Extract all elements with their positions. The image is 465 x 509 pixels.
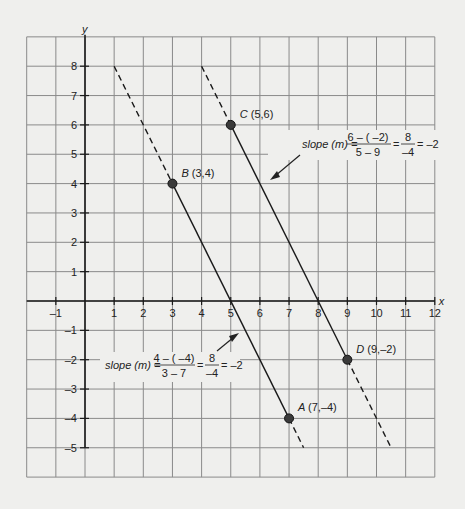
x-tick-label: 2	[140, 307, 146, 319]
slope-annotation-ab: slope (m) = 4 – ( –4) 3 – 7 = 8 –4 = –2	[100, 352, 243, 382]
svg-text:C (5,6): C (5,6)	[240, 108, 274, 120]
x-tick-label: 8	[315, 307, 321, 319]
arrow-icon	[217, 333, 239, 351]
x-tick-label: 1	[111, 307, 117, 319]
svg-text:A (7,–4): A (7,–4)	[297, 401, 337, 413]
y-tick-label: –3	[65, 383, 77, 395]
y-tick-label: 4	[71, 178, 77, 190]
y-tick-label: 2	[71, 236, 77, 248]
x-tick-label: 5	[228, 307, 234, 319]
svg-text:=: =	[393, 138, 399, 150]
point-d: D (9,–2)	[343, 343, 396, 365]
x-tick-label: 10	[370, 307, 382, 319]
svg-text:D (9,–2): D (9,–2)	[356, 343, 396, 355]
fraction-numerator-2: 8	[209, 352, 215, 364]
x-tick-label: 7	[286, 307, 292, 319]
y-tick-label: 7	[71, 90, 77, 102]
x-tick-label: 11	[400, 307, 411, 319]
dashed-extension	[347, 360, 391, 448]
y-tick-label: –4	[65, 412, 77, 424]
y-tick-label: –2	[65, 354, 77, 366]
svg-text:=: =	[197, 359, 203, 371]
x-tick-label: 12	[429, 307, 441, 319]
coordinate-graph: xy–112345678910111287654321–1–2–3–4–5 A …	[0, 0, 465, 509]
x-tick-label: 9	[344, 307, 350, 319]
x-tick-label: 4	[199, 307, 205, 319]
slope-annotation-cd: slope (m) = 6 – ( –2) 5 – 9 = 8 –4 = –2	[268, 130, 448, 160]
point-c: C (5,6)	[226, 108, 273, 129]
x-axis-label: x	[438, 295, 445, 307]
fraction-numerator-2: 8	[405, 131, 411, 143]
fraction-numerator: 6 – ( –2)	[348, 131, 389, 143]
fraction-denominator-2: –4	[206, 367, 218, 379]
x-tick-label: –1	[50, 307, 62, 319]
fraction-denominator: 3 – 7	[162, 367, 186, 379]
y-tick-label: 8	[71, 60, 77, 72]
slope-prefix: slope (m) =	[105, 359, 161, 371]
y-tick-label: –1	[65, 324, 77, 336]
fraction-denominator: 5 – 9	[356, 146, 380, 158]
y-tick-label: –5	[65, 442, 77, 454]
y-tick-label: 3	[71, 207, 77, 219]
y-tick-label: 5	[71, 148, 77, 160]
slope-result: = –2	[221, 359, 243, 371]
slope-result: = –2	[417, 138, 439, 150]
x-tick-label: 6	[257, 307, 263, 319]
lines	[114, 66, 391, 448]
fraction-numerator: 4 – ( –4)	[154, 352, 195, 364]
y-tick-label: 1	[71, 266, 77, 278]
point-b: B (3,4)	[168, 167, 215, 189]
y-axis-label: y	[81, 23, 89, 35]
x-tick-label: 3	[169, 307, 175, 319]
fraction-denominator-2: –4	[402, 146, 414, 158]
grid	[27, 37, 435, 477]
y-tick-label: 6	[71, 119, 77, 131]
svg-text:B (3,4): B (3,4)	[181, 167, 214, 179]
point-a: A (7,–4)	[285, 401, 337, 423]
